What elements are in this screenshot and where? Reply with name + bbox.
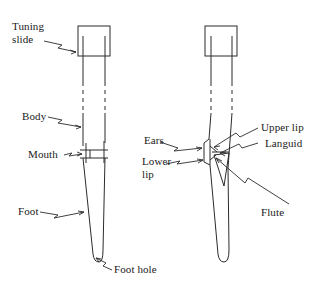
flue-pipe-diagram: Tuning slide Body Mouth Foot Foot hole E…: [0, 0, 319, 292]
label-foot-hole: Foot hole: [114, 263, 157, 276]
leader-foot: [40, 212, 84, 218]
label-languid: Languid: [265, 137, 302, 150]
label-upper-lip: Upper lip: [261, 121, 304, 134]
leader-upper-lip: [214, 128, 258, 147]
right-foot-wall-right: [228, 168, 229, 250]
label-body: Body: [22, 110, 46, 123]
left-foot-wall-right: [103, 158, 105, 250]
leader-upper-lip-head: [214, 146, 220, 150]
leader-ears-head: [196, 147, 202, 151]
left-foot-wall-left: [83, 158, 93, 254]
leader-tuning-slide-head: [70, 50, 76, 54]
right-foot-tip: [218, 250, 229, 262]
label-tuning-slide: Tuning slide: [12, 20, 44, 45]
right-foot-wall-left: [210, 165, 218, 254]
right-body-wall-left-lower: [209, 113, 211, 139]
right-ear-left: [204, 139, 210, 165]
label-flute: Flute: [261, 206, 284, 219]
label-mouth: Mouth: [28, 148, 58, 161]
leader-lower-lip: [166, 160, 203, 164]
label-lower-lip: Lower lip: [142, 155, 171, 180]
leader-ears: [160, 142, 202, 151]
left-pipe-group: [78, 26, 110, 262]
leader-foot-hole: [96, 258, 112, 270]
label-foot: Foot: [18, 205, 39, 218]
right-pipe-group: [204, 26, 237, 262]
leader-body-head: [75, 125, 81, 129]
label-ears: Ears: [144, 134, 164, 147]
